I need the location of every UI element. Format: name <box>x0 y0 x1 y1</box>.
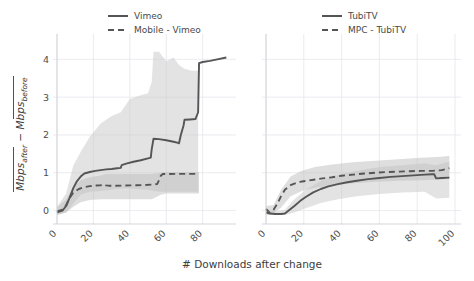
x-tick-label: 60 <box>151 228 167 244</box>
x-tick-label: 80 <box>402 228 418 244</box>
left-panel-bands <box>57 52 199 215</box>
y-tick-label: 1 <box>43 167 49 178</box>
right-panel-xticklabels: 020406080100 <box>255 228 456 249</box>
left-panel-xticklabels: 020406080 <box>46 228 204 244</box>
x-tick-label: 100 <box>436 228 457 249</box>
right-panel-legend: TubiTVMPC - TubiTV <box>322 11 407 35</box>
x-tick-label: 20 <box>79 228 95 244</box>
x-tick-label: 20 <box>289 228 305 244</box>
legend-label: Vimeo <box>134 11 163 21</box>
ylabel-second-sub: before <box>20 77 29 102</box>
left-panel-yticklabels: 01234 <box>43 54 49 216</box>
x-tick-label: 40 <box>115 228 131 244</box>
y-axis-label: Mbpsafter − Mbpsbefore <box>14 76 30 192</box>
legend-label: TubiTV <box>347 11 379 21</box>
left-panel: 01234 020406080 VimeoMobile - Vimeo <box>43 11 236 244</box>
y-tick-label: 0 <box>43 205 49 216</box>
chart-svg: 01234 020406080 VimeoMobile - Vimeo 0204… <box>0 0 474 281</box>
left-panel-legend: VimeoMobile - Vimeo <box>108 11 201 35</box>
y-tick-label: 4 <box>43 54 49 65</box>
legend-label: Mobile - Vimeo <box>134 25 201 35</box>
svg-text:Mbpsafter − Mbpsbefore: Mbpsafter − Mbpsbefore <box>14 77 29 191</box>
ylabel-second-term: Mbps <box>14 101 26 129</box>
x-axis-label: # Downloads after change <box>182 258 322 270</box>
right-panel: 020406080100 TubiTVMPC - TubiTV <box>255 11 461 248</box>
legend-label: MPC - TubiTV <box>348 25 407 35</box>
y-tick-label: 2 <box>43 129 49 140</box>
x-tick-label: 40 <box>327 228 343 244</box>
ylabel-first-term: Mbps <box>14 162 26 190</box>
x-tick-label: 0 <box>46 228 58 240</box>
ylabel-minus: − <box>14 133 26 142</box>
figure-container: 01234 020406080 VimeoMobile - Vimeo 0204… <box>0 0 474 281</box>
x-tick-label: 0 <box>255 228 267 240</box>
ylabel-first-sub: after <box>20 144 29 163</box>
y-tick-label: 3 <box>43 92 49 103</box>
x-tick-label: 60 <box>364 228 380 244</box>
x-tick-label: 80 <box>188 228 204 244</box>
